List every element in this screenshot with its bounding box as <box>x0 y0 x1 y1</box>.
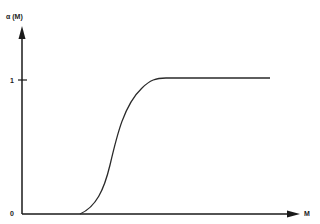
x-axis-arrow-icon <box>287 211 300 218</box>
y-axis-arrow-icon <box>19 26 26 39</box>
x-axis-label: M <box>304 210 310 217</box>
y-axis-label: α (M) <box>6 13 23 20</box>
chart-canvas <box>0 0 320 224</box>
y-tick-label-zero: 0 <box>10 210 14 217</box>
y-tick-label-one: 1 <box>10 77 14 84</box>
alpha-curve <box>80 78 270 214</box>
